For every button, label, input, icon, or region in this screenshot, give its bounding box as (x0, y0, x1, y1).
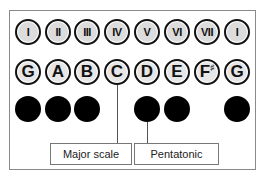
note-label: A (52, 62, 64, 82)
degree-label: III (83, 26, 91, 38)
note-circle-b: B (74, 59, 100, 85)
major-scale-text: Major scale (63, 148, 119, 160)
degree-circle-1: I (15, 19, 41, 45)
pentatonic-dot-g-octave (224, 96, 250, 122)
degree-label: I (236, 26, 239, 38)
note-label: D (141, 62, 153, 82)
sharp-icon: ♯ (210, 63, 214, 72)
degree-circle-6: VI (164, 19, 190, 45)
note-circle-c: C (104, 59, 130, 85)
note-label: E (171, 62, 182, 82)
pentatonic-dot-a (45, 96, 71, 122)
major-scale-connector (117, 85, 118, 143)
pentatonic-dot-e (164, 96, 190, 122)
pentatonic-dot-g (15, 96, 41, 122)
degree-label: II (55, 26, 60, 38)
degree-circle-8: I (224, 19, 250, 45)
pentatonic-dot-b (74, 96, 100, 122)
note-label: C (111, 62, 123, 82)
degree-circle-3: III (74, 19, 100, 45)
pentatonic-dot-d (134, 96, 160, 122)
degree-circle-5: V (134, 19, 160, 45)
degree-label: VII (201, 26, 213, 38)
note-label: G (21, 62, 34, 82)
degree-circle-7: VII (194, 19, 220, 45)
pentatonic-label: Pentatonic (134, 143, 219, 165)
degree-circle-2: II (45, 19, 71, 45)
note-label: G (230, 62, 243, 82)
degree-label: VI (172, 26, 181, 38)
note-circle-d: D (134, 59, 160, 85)
note-circle-f-sharp: F♯ (194, 59, 220, 85)
major-scale-label: Major scale (50, 143, 132, 165)
note-circle-e: E (164, 59, 190, 85)
note-label: F (200, 62, 210, 82)
pentatonic-text: Pentatonic (151, 148, 203, 160)
note-circle-g-octave: G (224, 59, 250, 85)
degree-label: I (27, 26, 30, 38)
degree-circle-4: IV (104, 19, 130, 45)
note-label: B (81, 62, 93, 82)
degree-label: V (144, 26, 151, 38)
pentatonic-connector (147, 122, 148, 143)
degree-label: IV (112, 26, 121, 38)
note-circle-a: A (45, 59, 71, 85)
note-circle-g: G (15, 59, 41, 85)
